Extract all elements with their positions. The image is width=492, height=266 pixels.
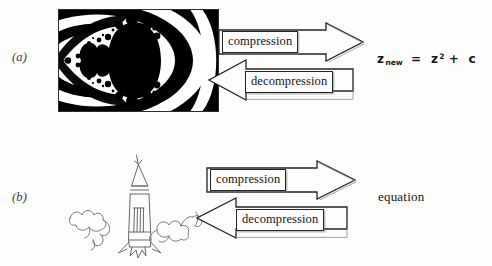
- equation-constant: c: [469, 52, 478, 66]
- fractal-graphic: [59, 10, 218, 111]
- compression-label-b: compression: [210, 169, 286, 191]
- compression-label-a: compression: [222, 31, 298, 53]
- equation-plus: +: [449, 52, 460, 66]
- panel-label-b: (b): [12, 190, 27, 205]
- equation-output-a: znew = z2 + c: [377, 52, 477, 67]
- equation-subscript: new: [385, 58, 402, 67]
- decompression-label-a: decompression: [245, 71, 333, 93]
- equation-equals: =: [411, 52, 422, 66]
- figure-canvas: (a): [0, 0, 492, 266]
- decompression-label-b: decompression: [236, 209, 324, 231]
- panel-label-a: (a): [12, 50, 27, 65]
- equation-output-b: equation: [378, 189, 424, 205]
- mandelbrot-fractal-image: [58, 9, 219, 112]
